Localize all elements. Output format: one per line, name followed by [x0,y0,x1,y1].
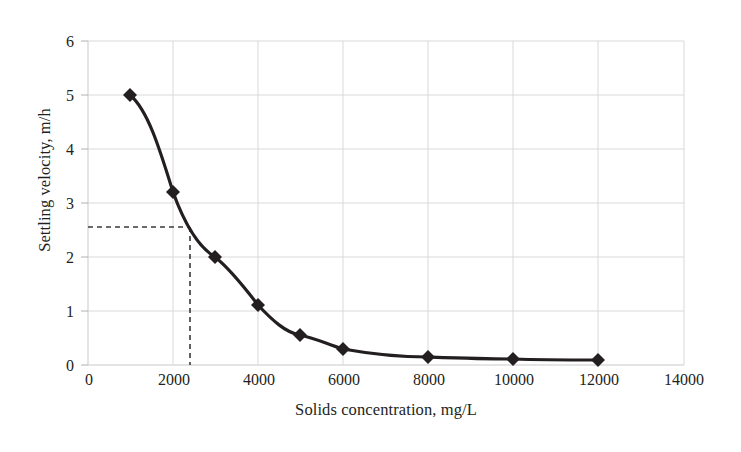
data-point-marker-8000 [421,350,435,364]
data-point-markers [123,88,605,367]
guideline-annotation [88,227,190,365]
data-series-line [130,95,598,360]
plot-canvas [0,0,741,452]
axis-ticks [81,41,88,365]
data-point-marker-6000 [336,342,350,356]
data-point-marker-5000 [293,328,307,342]
data-point-marker-2000 [166,185,180,199]
data-point-marker-10000 [506,352,520,366]
settling-velocity-chart: Settling velocity, m/h Solids concentrat… [0,0,741,452]
